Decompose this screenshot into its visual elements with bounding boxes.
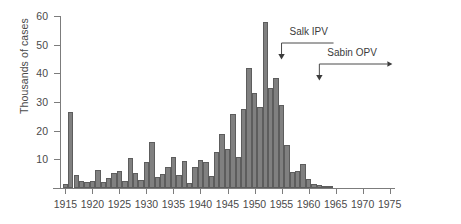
sabin-opv-arrow	[0, 0, 461, 224]
polio-cases-chart: Thousands of cases 102030405060 19151920…	[0, 0, 461, 224]
